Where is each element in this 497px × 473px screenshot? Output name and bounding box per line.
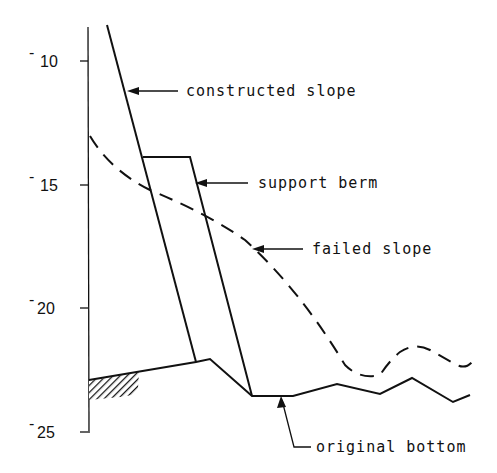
svg-text:-: - bbox=[29, 291, 34, 308]
tick-label-10: 10 bbox=[40, 53, 58, 70]
support-berm-line bbox=[143, 157, 252, 396]
failed-slope-callout: failed slope bbox=[252, 240, 432, 258]
y-axis bbox=[80, 27, 89, 433]
tick-label-25: 25 bbox=[37, 424, 55, 441]
constructed-slope-label: constructed slope bbox=[186, 82, 357, 100]
original-bottom-label: original bottom bbox=[316, 438, 466, 456]
svg-text:-: - bbox=[29, 168, 34, 185]
support-berm-label: support berm bbox=[258, 174, 378, 192]
failed-slope-label: failed slope bbox=[312, 240, 432, 258]
slope-profile-diagram: - 10 - 15 - 20 - 25 constructed slope su… bbox=[0, 0, 497, 473]
y-tick-labels: - 10 - 15 - 20 - 25 bbox=[29, 44, 58, 441]
tick-label-15: 15 bbox=[40, 177, 58, 194]
constructed-slope-line bbox=[107, 25, 196, 362]
arrow-icon bbox=[127, 87, 139, 95]
tick-label-20: 20 bbox=[37, 300, 55, 317]
arrow-icon bbox=[277, 396, 286, 408]
support-berm-callout: support berm bbox=[195, 174, 378, 192]
original-bottom-callout: original bottom bbox=[277, 396, 466, 456]
original-bottom-line bbox=[89, 359, 470, 402]
constructed-slope-callout: constructed slope bbox=[127, 82, 357, 100]
svg-text:-: - bbox=[29, 415, 34, 432]
svg-text:-: - bbox=[29, 44, 34, 61]
